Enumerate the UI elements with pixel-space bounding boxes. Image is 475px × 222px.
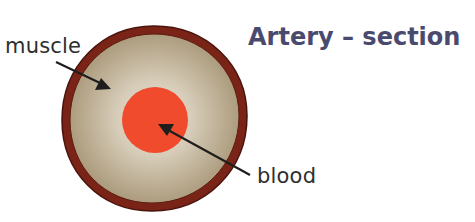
blood-lumen <box>122 87 188 153</box>
muscle-label: muscle <box>5 36 81 57</box>
blood-label: blood <box>257 166 316 187</box>
diagram-title: Artery – section <box>248 25 460 49</box>
